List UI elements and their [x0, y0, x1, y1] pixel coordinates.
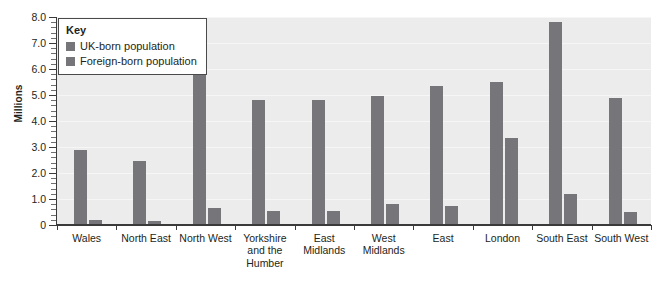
x-axis-tick: [592, 225, 593, 230]
y-axis-tick-label: 2.0: [12, 168, 46, 178]
y-axis-minor-tick: [51, 137, 56, 138]
y-axis-minor-tick: [51, 142, 56, 143]
y-axis-minor-tick: [51, 79, 56, 80]
y-axis-tick: [49, 147, 56, 148]
y-axis-tick-label: 0: [12, 220, 46, 230]
x-axis-tick: [295, 225, 296, 230]
x-axis-tick: [413, 225, 414, 230]
bar-foreign-born: [267, 211, 280, 225]
y-axis-tick: [49, 43, 56, 44]
y-axis-minor-tick: [51, 59, 56, 60]
bar-foreign-born: [386, 204, 399, 225]
y-axis-minor-tick: [51, 116, 56, 117]
legend-items: UK-born populationForeign-born populatio…: [66, 40, 197, 68]
x-axis-tick: [235, 225, 236, 230]
y-axis-tick: [49, 121, 56, 122]
y-axis-minor-tick: [51, 53, 56, 54]
bar-uk-born: [312, 100, 325, 225]
y-axis-minor-tick: [51, 178, 56, 179]
bar-uk-born: [193, 57, 206, 225]
legend-title: Key: [66, 24, 197, 36]
bar-uk-born: [549, 22, 562, 225]
x-axis-tick: [473, 225, 474, 230]
x-axis-tick: [532, 225, 533, 230]
bar-foreign-born: [445, 206, 458, 226]
y-axis-minor-tick: [51, 27, 56, 28]
y-axis-minor-tick: [51, 209, 56, 210]
y-axis-minor-tick: [51, 163, 56, 164]
legend-label: UK-born population: [80, 40, 175, 53]
x-axis-tick: [354, 225, 355, 230]
y-axis-minor-tick: [51, 152, 56, 153]
y-axis-tick-label: 1.0: [12, 194, 46, 204]
y-axis-tick: [49, 225, 56, 226]
bar-group: [549, 17, 577, 225]
x-axis-tick: [116, 225, 117, 230]
bar-group: [252, 17, 280, 225]
bar-group: [609, 17, 637, 225]
bar-foreign-born: [327, 211, 340, 225]
x-axis-label-line: Midlands: [348, 244, 419, 256]
bar-foreign-born: [208, 208, 221, 225]
bar-group: [312, 17, 340, 225]
bar-uk-born: [74, 150, 87, 225]
y-axis-tick: [49, 199, 56, 200]
bar-chart: Millions 01.02.03.04.05.06.07.08.0 Wales…: [0, 0, 660, 283]
y-axis-minor-tick: [51, 22, 56, 23]
legend-swatch: [66, 57, 75, 66]
y-axis-tick: [49, 95, 56, 96]
bar-foreign-born: [505, 138, 518, 225]
legend-label: Foreign-born population: [80, 55, 197, 68]
x-axis-label-line: South West: [586, 232, 657, 244]
y-axis-minor-tick: [51, 189, 56, 190]
y-axis-tick-label: 6.0: [12, 64, 46, 74]
y-axis-minor-tick: [51, 220, 56, 221]
x-axis-label-line: Humber: [229, 257, 300, 269]
y-axis-minor-tick: [51, 38, 56, 39]
y-axis-minor-tick: [51, 215, 56, 216]
bar-group: [430, 17, 458, 225]
x-axis-tick: [57, 225, 58, 230]
y-axis-minor-tick: [51, 85, 56, 86]
bar-uk-born: [609, 98, 622, 225]
bar-uk-born: [252, 100, 265, 225]
y-axis-minor-tick: [51, 157, 56, 158]
legend: Key UK-born populationForeign-born popul…: [58, 18, 207, 75]
y-axis-minor-tick: [51, 48, 56, 49]
y-axis-title: Millions: [13, 64, 24, 144]
y-axis-tick-label: 5.0: [12, 90, 46, 100]
y-axis-tick-label: 7.0: [12, 38, 46, 48]
y-axis-minor-tick: [51, 105, 56, 106]
bar-uk-born: [430, 86, 443, 225]
bar-group: [490, 17, 518, 225]
legend-swatch: [66, 42, 75, 51]
y-axis-minor-tick: [51, 100, 56, 101]
y-axis-minor-tick: [51, 64, 56, 65]
y-axis-minor-tick: [51, 111, 56, 112]
legend-item: UK-born population: [66, 40, 197, 53]
y-axis-minor-tick: [51, 74, 56, 75]
x-axis-tick: [176, 225, 177, 230]
y-axis-minor-tick: [51, 90, 56, 91]
bar-group: [371, 17, 399, 225]
x-axis-label: South West: [586, 232, 657, 244]
bar-uk-born: [371, 96, 384, 225]
y-axis-tick-label: 8.0: [12, 12, 46, 22]
y-axis-tick-label: 4.0: [12, 116, 46, 126]
y-axis-line: [56, 17, 57, 225]
y-axis-tick: [49, 173, 56, 174]
bar-uk-born: [490, 82, 503, 225]
y-axis-minor-tick: [51, 204, 56, 205]
y-axis-tick-label: 3.0: [12, 142, 46, 152]
y-axis-tick: [49, 17, 56, 18]
y-axis-minor-tick: [51, 168, 56, 169]
x-axis-tick: [651, 225, 652, 230]
legend-item: Foreign-born population: [66, 55, 197, 68]
y-axis-minor-tick: [51, 126, 56, 127]
y-axis-minor-tick: [51, 33, 56, 34]
y-axis-minor-tick: [51, 183, 56, 184]
bar-uk-born: [133, 161, 146, 225]
bar-foreign-born: [564, 194, 577, 225]
y-axis-tick: [49, 69, 56, 70]
y-axis-minor-tick: [51, 131, 56, 132]
